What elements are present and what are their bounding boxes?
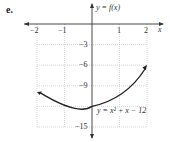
y-tick-neg9: −9 bbox=[79, 82, 88, 90]
y-axis-up-arrow-icon bbox=[90, 3, 94, 8]
x-tick-neg1: −1 bbox=[58, 27, 67, 35]
y-axis-down-arrow-icon bbox=[90, 134, 94, 139]
y-axis-label: y = f(x) bbox=[96, 4, 120, 12]
x-tick-1: 1 bbox=[117, 27, 121, 35]
y-tick-neg6: −6 bbox=[79, 61, 88, 69]
axes bbox=[24, 4, 163, 138]
x-axis-label: x bbox=[158, 26, 162, 34]
x-axis-left-arrow-icon bbox=[24, 22, 29, 26]
y-tick-neg3: −3 bbox=[79, 41, 88, 49]
equation-label: y = x² + x − 12 bbox=[97, 107, 146, 115]
x-tick-2: 2 bbox=[144, 27, 148, 35]
y-tick-neg15: −15 bbox=[75, 123, 88, 131]
parabola-curve bbox=[40, 69, 145, 109]
x-tick-neg2: −2 bbox=[30, 27, 39, 35]
parabola-graph bbox=[0, 0, 170, 142]
